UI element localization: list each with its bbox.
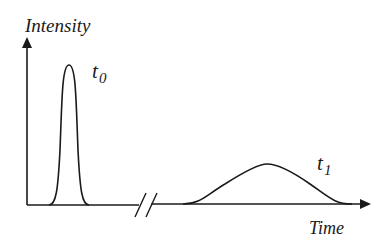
pulse-broadening-diagram: Intensity Time t 0 t 1: [0, 0, 388, 245]
pulse-label-t1: t 1: [317, 151, 332, 178]
pulse-label-t1-sub: 1: [324, 162, 332, 178]
pulse-label-t0-sub: 0: [99, 70, 107, 86]
x-axis-arrow-icon: [360, 199, 371, 209]
x-axis-label: Time: [309, 218, 344, 238]
pulse-label-t0: t 0: [92, 59, 107, 86]
axis-break-mark-2: [146, 193, 157, 217]
y-axis-label: Intensity: [24, 15, 91, 36]
pulse-label-t0-base: t: [92, 59, 99, 83]
pulse-label-t1-base: t: [317, 151, 324, 175]
y-axis-arrow-icon: [22, 37, 32, 48]
pulse-t0-curve: [49, 65, 89, 205]
